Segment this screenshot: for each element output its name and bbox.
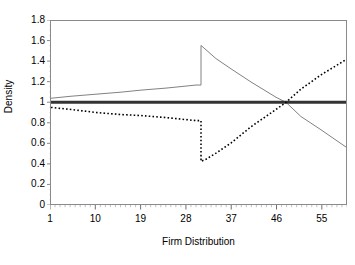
plot-area <box>50 20 347 205</box>
y-tick-label: 1.6 <box>31 36 45 46</box>
y-tick-label: 1.8 <box>31 15 45 25</box>
x-tick-label: 55 <box>316 213 327 225</box>
plot-series-svg <box>51 21 346 204</box>
series-solid-gray-density <box>51 45 346 147</box>
y-tick-label: 0.8 <box>31 118 45 128</box>
x-tick-label: 19 <box>135 213 146 225</box>
x-tick-label: 10 <box>90 213 101 225</box>
y-tick-label: 1.4 <box>31 56 45 66</box>
x-tick-label: 46 <box>271 213 282 225</box>
density-chart: Density 00.20.40.60.811.21.41.61.8 11019… <box>0 0 355 265</box>
x-axis-title: Firm Distribution <box>50 236 347 247</box>
x-tick-label: 37 <box>226 213 237 225</box>
y-axis-tick-labels: 00.20.40.60.811.21.41.61.8 <box>0 20 45 205</box>
x-axis-tick-labels: 1101928374655 <box>50 213 347 227</box>
x-tick-label: 1 <box>47 213 53 225</box>
y-tick-label: 0.2 <box>31 179 45 189</box>
y-tick-label: 1.2 <box>31 77 45 87</box>
series-dotted-black-density <box>51 60 346 162</box>
x-tick-label: 28 <box>180 213 191 225</box>
y-tick-label: 0.6 <box>31 138 45 148</box>
y-tick-label: 0.4 <box>31 159 45 169</box>
x-axis-ticks <box>50 205 347 211</box>
